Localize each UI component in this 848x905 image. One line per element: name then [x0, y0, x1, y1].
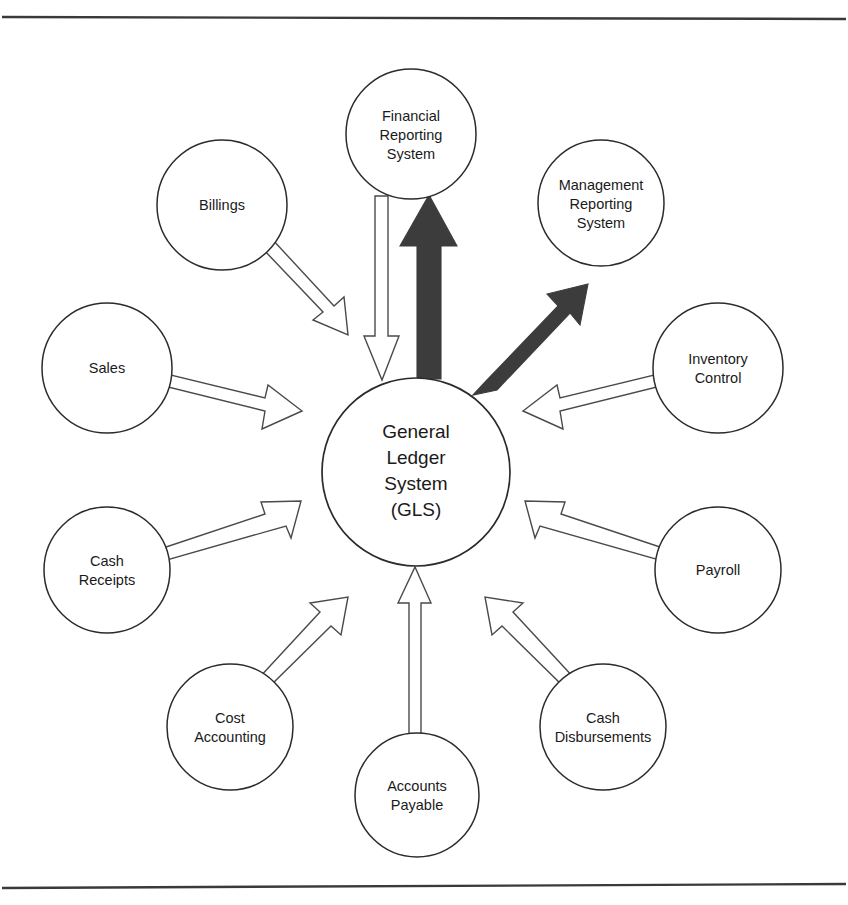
node-management-reporting-system-label-line2: Reporting: [570, 196, 633, 212]
node-inventory-control-circle[interactable]: [653, 303, 783, 433]
node-gls[interactable]: General Ledger System (GLS): [322, 378, 510, 566]
node-payroll[interactable]: Payroll: [655, 507, 781, 633]
arrow-inventory-control-to-gls: [523, 375, 657, 429]
node-inventory-control-label-line2: Control: [695, 370, 742, 386]
node-cost-accounting[interactable]: Cost Accounting: [167, 664, 293, 790]
node-cost-accounting-label-line2: Accounting: [194, 729, 266, 745]
node-accounts-payable-circle[interactable]: [355, 733, 479, 857]
nodes-layer: General Ledger System (GLS) Financial Re…: [42, 69, 783, 857]
arrow-billings-to-gls: [262, 239, 348, 335]
node-cash-disbursements[interactable]: Cash Disbursements: [540, 664, 666, 790]
node-gls-label-line4: (GLS): [391, 499, 442, 520]
node-management-reporting-system-label-line3: System: [577, 215, 625, 231]
node-cash-disbursements-label-line2: Disbursements: [555, 729, 652, 745]
arrow-accounts-payable-to-gls: [398, 567, 431, 734]
node-financial-reporting-system-label-line2: Reporting: [380, 127, 443, 143]
node-financial-reporting-system[interactable]: Financial Reporting System: [346, 69, 476, 199]
node-inventory-control-label: Inventory: [688, 351, 748, 367]
node-gls-circle[interactable]: [322, 378, 510, 566]
node-gls-label-line3: System: [384, 473, 447, 494]
arrow-gls-to-management-reporting: [473, 284, 588, 395]
node-billings-label: Billings: [199, 197, 245, 213]
general-ledger-system-diagram: General Ledger System (GLS) Financial Re…: [0, 0, 848, 905]
node-cash-receipts-label: Cash: [90, 553, 124, 569]
node-gls-label-line2: Ledger: [386, 447, 446, 468]
diagram-canvas: General Ledger System (GLS) Financial Re…: [0, 0, 848, 905]
arrow-gls-to-financial-reporting: [400, 195, 457, 379]
top-rule: [2, 17, 846, 19]
node-gls-label: General: [382, 421, 450, 442]
arrow-payroll-to-gls: [525, 501, 663, 560]
node-sales-label: Sales: [89, 360, 125, 376]
node-accounts-payable-label: Accounts: [387, 778, 447, 794]
node-payroll-label: Payroll: [696, 562, 740, 578]
bottom-rule: [2, 884, 846, 888]
arrow-cost-accounting-to-gls: [258, 597, 348, 688]
node-cash-receipts[interactable]: Cash Receipts: [44, 507, 170, 633]
node-cash-disbursements-circle[interactable]: [540, 664, 666, 790]
node-cost-accounting-label: Cost: [215, 710, 245, 726]
node-management-reporting-system-label: Management: [559, 177, 644, 193]
node-management-reporting-system[interactable]: Management Reporting System: [538, 140, 664, 266]
node-accounts-payable[interactable]: Accounts Payable: [355, 733, 479, 857]
node-cash-disbursements-label: Cash: [586, 710, 620, 726]
node-accounts-payable-label-line2: Payable: [391, 797, 443, 813]
arrow-sales-to-gls: [168, 375, 302, 429]
arrow-cash-disbursements-to-gls: [485, 597, 575, 688]
arrow-financial-reporting-to-gls: [364, 196, 399, 380]
node-cash-receipts-label-line2: Receipts: [79, 572, 135, 588]
node-inventory-control[interactable]: Inventory Control: [653, 303, 783, 433]
node-financial-reporting-system-label: Financial: [382, 108, 440, 124]
node-financial-reporting-system-label-line3: System: [387, 146, 435, 162]
node-cash-receipts-circle[interactable]: [44, 507, 170, 633]
node-cost-accounting-circle[interactable]: [167, 664, 293, 790]
node-sales[interactable]: Sales: [42, 303, 172, 433]
arrow-cash-receipts-to-gls: [163, 501, 301, 560]
node-billings[interactable]: Billings: [157, 140, 287, 270]
